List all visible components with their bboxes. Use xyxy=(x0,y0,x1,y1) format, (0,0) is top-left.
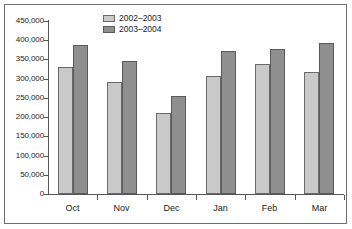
bar-jan-series-2 xyxy=(221,51,236,194)
x-axis-tick xyxy=(295,195,296,200)
y-axis-tick-label: 350,000 xyxy=(2,55,44,63)
y-axis-tick-label: 400,000 xyxy=(2,36,44,44)
y-axis-tick-label-wrap: 0 xyxy=(0,190,44,198)
y-axis-tick xyxy=(44,156,49,157)
y-axis-tick-label-wrap: 150,000 xyxy=(0,132,44,140)
bar-jan-series-1 xyxy=(206,76,221,194)
x-axis-tick-label: Dec xyxy=(147,203,196,213)
x-axis-tick xyxy=(196,195,197,200)
y-axis-tick-label-wrap: 200,000 xyxy=(0,113,44,121)
y-axis-tick xyxy=(44,40,49,41)
y-axis-tick-label: 450,000 xyxy=(2,17,44,25)
bar-nov-series-1 xyxy=(107,82,122,194)
x-axis-tick-label: Mar xyxy=(295,203,344,213)
y-axis-tick xyxy=(44,117,49,118)
bar-oct-series-2 xyxy=(73,45,88,194)
legend-item-2: 2003–2004 xyxy=(103,25,162,34)
y-axis-tick-label: 100,000 xyxy=(2,152,44,160)
bar-mar-series-2 xyxy=(319,43,334,194)
y-axis-tick xyxy=(44,21,49,22)
y-axis-tick-label: 150,000 xyxy=(2,132,44,140)
y-axis-tick-label: 50,000 xyxy=(2,171,44,179)
y-axis-tick-label-wrap: 400,000 xyxy=(0,36,44,44)
x-axis-tick xyxy=(147,195,148,200)
y-axis-tick-label-wrap: 250,000 xyxy=(0,94,44,102)
chart-legend: 2002–20032003–2004 xyxy=(103,14,162,34)
bar-feb-series-2 xyxy=(270,49,285,194)
bar-mar-series-1 xyxy=(304,72,319,194)
y-axis-tick-label: 300,000 xyxy=(2,75,44,83)
y-axis-tick xyxy=(44,79,49,80)
bar-dec-series-2 xyxy=(171,96,186,194)
dark-gray-swatch-icon xyxy=(103,26,115,33)
y-axis-tick xyxy=(44,98,49,99)
bar-dec-series-1 xyxy=(156,113,171,194)
y-axis-tick xyxy=(44,136,49,137)
bar-nov-series-2 xyxy=(122,61,137,194)
legend-item-1: 2002–2003 xyxy=(103,14,162,23)
y-axis-tick-label-wrap: 300,000 xyxy=(0,75,44,83)
y-axis-line xyxy=(48,20,49,195)
bar-feb-series-1 xyxy=(255,64,270,194)
y-axis-tick-label-wrap: 50,000 xyxy=(0,171,44,179)
y-axis-tick xyxy=(44,59,49,60)
y-axis-tick-label: 200,000 xyxy=(2,113,44,121)
y-axis-tick-label: 0 xyxy=(2,190,44,198)
legend-item-label: 2002–2003 xyxy=(119,14,162,23)
y-axis-tick-label: 250,000 xyxy=(2,94,44,102)
light-gray-swatch-icon xyxy=(103,15,115,22)
y-axis-tick xyxy=(44,175,49,176)
x-axis-tick-label: Jan xyxy=(196,203,245,213)
legend-item-label: 2003–2004 xyxy=(119,25,162,34)
x-axis-tick-label: Feb xyxy=(245,203,294,213)
bar-chart: 450,000400,000350,000300,000250,000200,0… xyxy=(0,0,352,229)
y-axis-tick-label-wrap: 100,000 xyxy=(0,152,44,160)
y-axis-tick-label-wrap: 350,000 xyxy=(0,55,44,63)
x-axis-tick-label: Oct xyxy=(48,203,97,213)
x-axis-tick xyxy=(344,195,345,200)
x-axis-tick xyxy=(245,195,246,200)
y-axis-tick-label-wrap: 450,000 xyxy=(0,17,44,25)
x-axis-tick-label: Nov xyxy=(97,203,146,213)
bar-oct-series-1 xyxy=(58,67,73,194)
y-axis-tick xyxy=(44,194,49,195)
x-axis-tick xyxy=(97,195,98,200)
